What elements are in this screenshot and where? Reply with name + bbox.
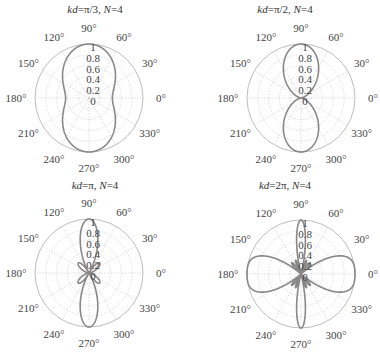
radial-tick-label: 0 [302,271,308,283]
radial-tick-label: 0.4 [298,249,312,261]
radial-tick-label: 0 [302,95,308,107]
angle-tick-label: 240° [44,328,65,340]
polar-plot-4: kd=2π, N=40°30°60°90°120°150°180°210°240… [190,176,380,352]
radial-tick-label: 1 [90,41,96,53]
radial-tick-label: 0.6 [298,63,312,75]
radial-tick-label: 0.6 [86,238,100,250]
angle-tick-label: 120° [44,206,65,218]
radial-tick-label: 0.8 [298,228,312,240]
angle-tick-label: 0° [156,92,166,104]
angle-tick-label: 90° [81,197,96,209]
angle-tick-label: 240° [256,153,277,165]
angle-tick-label: 180° [6,267,27,279]
angle-tick-label: 90° [293,22,308,34]
angle-tick-label: 180° [6,92,27,104]
angle-tick-label: 120° [44,31,65,43]
radial-tick-label: 0.2 [298,84,312,96]
angle-tick-label: 150° [18,232,39,244]
angle-tick-label: 300° [326,329,347,341]
polar-plot-3: kd=π, N=40°30°60°90°120°150°180°210°240°… [0,176,190,352]
radial-tick-label: 0.2 [86,84,100,96]
angle-tick-label: 180° [218,92,239,104]
angle-tick-label: 120° [256,31,277,43]
angle-tick-label: 300° [114,153,135,165]
angle-tick-label: 0° [368,268,378,280]
angle-tick-label: 300° [114,328,135,340]
angle-tick-label: 330° [351,127,372,139]
radial-tick-label: 0 [90,95,96,107]
angle-tick-label: 120° [256,207,277,219]
angle-tick-label: 300° [326,153,347,165]
angle-tick-label: 0° [368,92,378,104]
angle-tick-label: 30° [354,57,369,69]
polar-plot-2: kd=π/2, N=40°30°60°90°120°150°180°210°24… [190,0,380,176]
angle-tick-label: 60° [116,206,131,218]
angle-tick-label: 330° [351,303,372,315]
polar-axes [190,176,380,352]
plot-title: kd=π, N=4 [0,179,190,191]
angle-tick-label: 60° [328,31,343,43]
polar-plot-1: kd=π/3, N=40°30°60°90°120°150°180°210°24… [0,0,190,176]
polar-axes [190,0,380,176]
angle-tick-label: 60° [328,207,343,219]
angle-tick-label: 210° [18,302,39,314]
radial-tick-label: 0.4 [86,248,100,260]
angle-tick-label: 240° [44,153,65,165]
angle-tick-label: 270° [291,162,312,174]
angle-tick-label: 90° [293,198,308,210]
radial-tick-label: 0 [90,270,96,282]
plot-title: kd=π/3, N=4 [0,3,190,15]
angle-tick-label: 270° [79,162,100,174]
angle-tick-label: 210° [230,303,251,315]
radial-tick-label: 0.8 [298,52,312,64]
plot-title: kd=2π, N=4 [190,179,380,191]
angle-tick-label: 150° [230,233,251,245]
radial-tick-label: 0.6 [86,63,100,75]
angle-tick-label: 330° [139,302,160,314]
angle-tick-label: 60° [116,31,131,43]
radial-tick-label: 0.8 [86,227,100,239]
angle-tick-label: 30° [354,233,369,245]
angle-tick-label: 270° [79,337,100,349]
radial-tick-label: 0.8 [86,52,100,64]
angle-tick-label: 240° [256,329,277,341]
radial-tick-label: 1 [302,217,308,229]
plot-title: kd=π/2, N=4 [190,3,380,15]
radial-tick-label: 1 [90,216,96,228]
radial-tick-label: 1 [302,41,308,53]
angle-tick-label: 180° [218,268,239,280]
angle-tick-label: 270° [291,338,312,350]
angle-tick-label: 30° [142,57,157,69]
radial-tick-label: 0.6 [298,239,312,251]
angle-tick-label: 330° [139,127,160,139]
angle-tick-label: 210° [230,127,251,139]
radial-tick-label: 0.4 [86,73,100,85]
radial-tick-label: 0.4 [298,73,312,85]
radial-tick-label: 0.2 [298,260,312,272]
angle-tick-label: 210° [18,127,39,139]
angle-tick-label: 150° [230,57,251,69]
angle-tick-label: 90° [81,22,96,34]
angle-tick-label: 30° [142,232,157,244]
angle-tick-label: 150° [18,57,39,69]
radial-tick-label: 0.2 [86,259,100,271]
angle-tick-label: 0° [156,267,166,279]
